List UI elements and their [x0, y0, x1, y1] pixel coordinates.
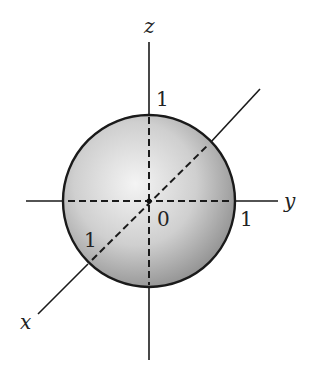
- x-tick-label: 1: [84, 228, 97, 252]
- x-axis-upper: [210, 89, 260, 143]
- x-axis-lower: [38, 264, 88, 314]
- origin-label: 0: [157, 207, 170, 231]
- sphere-diagram: z y x 1 1 1 0: [0, 0, 316, 374]
- x-axis-label: x: [20, 310, 31, 334]
- y-axis-label: y: [283, 189, 296, 213]
- z-axis-label: z: [143, 14, 155, 38]
- origin-point: [147, 199, 152, 204]
- y-tick-label: 1: [240, 207, 253, 231]
- z-tick-label: 1: [156, 87, 169, 111]
